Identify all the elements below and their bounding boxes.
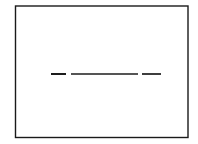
rectangle-border (16, 6, 189, 138)
figure-canvas (0, 0, 198, 144)
figure-container (0, 0, 198, 144)
